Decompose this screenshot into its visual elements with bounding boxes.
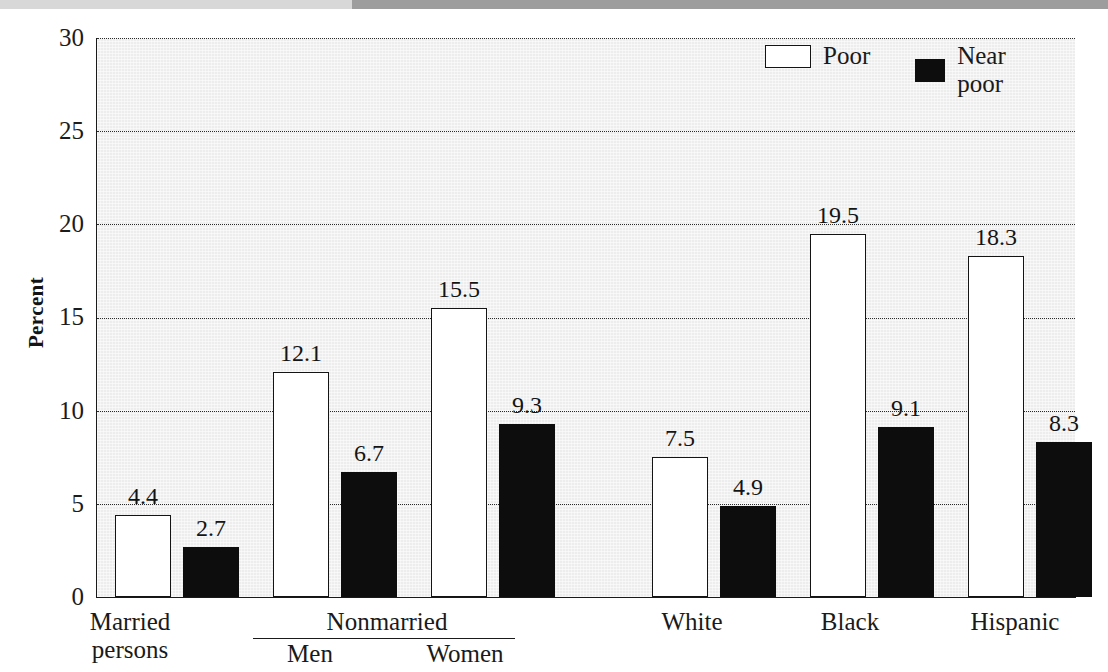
legend-item-poor[interactable]: Poor	[765, 42, 870, 70]
bar-value-white-poor: 7.5	[638, 425, 722, 452]
y-tick-label-25: 25	[10, 117, 84, 145]
bar-value-women-near: 9.3	[485, 392, 569, 419]
bar-value-married-near: 2.7	[169, 515, 253, 542]
bar-married-poor[interactable]	[115, 515, 171, 597]
bar-hispanic-near[interactable]	[1036, 442, 1092, 597]
x-category-label-married: Married persons	[40, 608, 220, 664]
plot-area: 4.42.712.16.715.59.37.54.919.59.118.38.3	[97, 38, 1075, 597]
bar-black-poor[interactable]	[810, 234, 866, 597]
bar-women-near[interactable]	[499, 424, 555, 597]
y-tick-label-0: 0	[10, 583, 84, 611]
x-axis-line	[96, 597, 1076, 598]
bar-women-poor[interactable]	[431, 308, 487, 597]
y-axis-line	[96, 38, 97, 598]
bar-value-men-near: 6.7	[327, 440, 411, 467]
nonmarried-group-bracket	[253, 638, 515, 639]
bar-value-hispanic-poor: 18.3	[954, 224, 1038, 251]
y-tick-label-5: 5	[10, 490, 84, 518]
bar-chart: 4.42.712.16.715.59.37.54.919.59.118.38.3…	[0, 0, 1108, 672]
bar-value-women-poor: 15.5	[417, 276, 501, 303]
legend-label-poor: Poor	[823, 42, 870, 70]
bar-white-near[interactable]	[720, 506, 776, 597]
bar-value-white-near: 4.9	[706, 474, 790, 501]
gridline-20	[97, 224, 1075, 225]
y-tick-label-20: 20	[10, 210, 84, 238]
bar-white-poor[interactable]	[652, 457, 708, 597]
gridline-15	[97, 318, 1075, 319]
x-category-label-women: Women	[400, 640, 530, 668]
y-axis-title: Percent	[24, 253, 49, 373]
bar-value-men-poor: 12.1	[259, 340, 343, 367]
bar-men-near[interactable]	[341, 472, 397, 597]
x-category-label-hispanic: Hispanic	[935, 608, 1095, 636]
bar-value-black-near: 9.1	[864, 395, 948, 422]
bar-value-hispanic-near: 8.3	[1022, 410, 1106, 437]
y-tick-label-10: 10	[10, 397, 84, 425]
gridline-30	[97, 38, 1075, 39]
gridline-25	[97, 131, 1075, 132]
bar-hispanic-poor[interactable]	[968, 256, 1024, 597]
x-category-label-nonmarried: Nonmarried	[272, 608, 502, 636]
legend-label-near-poor: Near poor	[957, 42, 1021, 98]
bar-value-married-poor: 4.4	[101, 483, 185, 510]
bar-black-near[interactable]	[878, 427, 934, 597]
legend-item-near-poor[interactable]: Near poor	[915, 42, 1022, 98]
y-tick-label-30: 30	[10, 24, 84, 52]
bar-value-black-poor: 19.5	[796, 202, 880, 229]
x-category-label-men: Men	[250, 640, 370, 668]
x-category-label-black: Black	[785, 608, 915, 636]
legend-swatch-near-poor-icon	[915, 59, 945, 82]
x-category-label-white: White	[627, 608, 757, 636]
bar-men-poor[interactable]	[273, 372, 329, 597]
bar-married-near[interactable]	[183, 547, 239, 597]
legend-swatch-poor-icon	[765, 45, 811, 68]
